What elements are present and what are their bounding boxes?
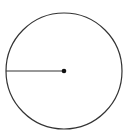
circle-diagram [0,0,133,138]
center-dot [62,69,67,74]
background [0,0,133,138]
